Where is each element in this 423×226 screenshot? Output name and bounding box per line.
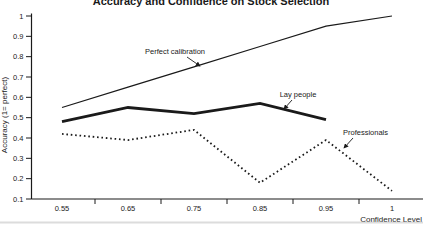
series-line-perfect-calibration [62,16,392,108]
annotation-arrow-lay-people [284,100,292,109]
annotations: Perfect calibrationLay peopleProfessiona… [145,47,388,148]
figure: Accuracy and Confidence on Stock Selecti… [0,0,423,226]
x-tick-label: 0.75 [187,204,202,213]
y-tick-label: 0.7 [13,73,23,82]
chart-canvas: Accuracy and Confidence on Stock Selecti… [0,0,423,226]
x-tick-label: 0.85 [253,204,268,213]
y-tick-label: 0.8 [13,52,23,61]
y-tick-label: 0.4 [13,134,23,143]
axes: 10.90.80.70.60.50.40.30.20.10.550.650.75… [13,12,423,213]
chart-title: Accuracy and Confidence on Stock Selecti… [93,0,330,7]
x-tick-label: 0.95 [319,204,334,213]
y-tick-label: 1 [19,12,23,21]
series-line-professionals [62,130,392,191]
x-tick-label: 0.65 [121,204,136,213]
annotation-label-professionals: Professionals [343,128,388,137]
y-tick-label: 0.6 [13,93,23,102]
scan-artifact-line [0,222,423,224]
annotation-label-lay-people: Lay people [280,90,317,99]
y-tick-label: 0.5 [13,113,23,122]
annotation-arrow-perfect-calibration [187,57,200,66]
y-tick-label: 0.3 [13,154,23,163]
y-tick-label: 0.1 [13,195,23,204]
series-lines [62,16,392,191]
x-tick-label: 0.55 [55,204,70,213]
x-tick-label: 1 [390,204,394,213]
annotation-label-perfect-calibration: Perfect calibration [145,47,205,56]
y-axis-label: Accuracy (1= perfect) [0,77,9,154]
annotation-arrow-professionals [344,138,353,148]
y-tick-label: 0.9 [13,32,23,41]
y-tick-label: 0.2 [13,174,23,183]
